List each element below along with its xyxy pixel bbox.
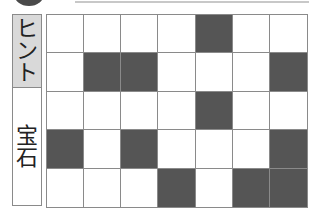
grid-cell[interactable] (84, 53, 121, 91)
grid-cell[interactable] (158, 53, 195, 91)
grid-cell[interactable] (47, 130, 84, 168)
grid-cell[interactable] (121, 92, 158, 130)
grid-cell[interactable] (196, 53, 233, 91)
grid-cell[interactable] (84, 15, 121, 53)
hint-label-char: ヒ (16, 18, 38, 40)
grid-cell[interactable] (270, 53, 307, 91)
grid-cell[interactable] (270, 169, 307, 207)
grid-cell[interactable] (233, 169, 270, 207)
grid-cell[interactable] (121, 53, 158, 91)
grid-cell[interactable] (158, 92, 195, 130)
hint-label-char: ン (16, 40, 38, 62)
label-column: ヒント 宝石 (12, 14, 42, 206)
grid-cell[interactable] (270, 15, 307, 53)
grid-cell[interactable] (270, 130, 307, 168)
grid-cell[interactable] (47, 53, 84, 91)
grid-cell[interactable] (121, 15, 158, 53)
grid-cell[interactable] (84, 92, 121, 130)
header-rule (75, 1, 309, 3)
grid-cell[interactable] (84, 130, 121, 168)
grid-cell[interactable] (47, 15, 84, 53)
grid-cell[interactable] (121, 130, 158, 168)
grid-cell[interactable] (196, 169, 233, 207)
grid-cell[interactable] (158, 130, 195, 168)
number-badge-circle (14, 0, 44, 6)
gem-label-char: 宝 (16, 125, 38, 147)
grid-cell[interactable] (196, 92, 233, 130)
hint-label-char: ト (16, 62, 38, 84)
puzzle-grid (46, 14, 308, 208)
grid-cell[interactable] (233, 15, 270, 53)
grid-cell[interactable] (47, 169, 84, 207)
grid-cell[interactable] (158, 15, 195, 53)
grid-cell[interactable] (270, 92, 307, 130)
grid-cell[interactable] (233, 130, 270, 168)
grid-cell[interactable] (196, 15, 233, 53)
grid-cell[interactable] (196, 130, 233, 168)
grid-cell[interactable] (158, 169, 195, 207)
gem-label-char: 石 (16, 147, 38, 169)
grid-cell[interactable] (233, 92, 270, 130)
grid-cell[interactable] (84, 169, 121, 207)
grid-cell[interactable] (121, 169, 158, 207)
grid-cell[interactable] (233, 53, 270, 91)
gem-label: 宝石 (13, 88, 41, 206)
hint-label: ヒント (13, 15, 41, 88)
grid-cell[interactable] (47, 92, 84, 130)
